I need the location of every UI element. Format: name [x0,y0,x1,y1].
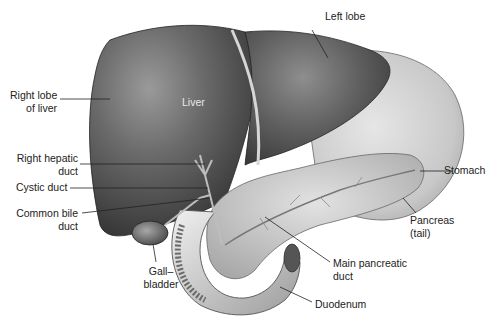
label-right-hepatic-line2: duct [14,165,78,178]
label-main-pancreatic-line2: duct [333,270,407,283]
label-main-pancreatic-duct: Main pancreatic duct [333,257,407,283]
label-liver: Liver [182,96,205,109]
label-right-lobe: Right lobe of liver [10,89,57,115]
label-common-bile-duct: Common bile duct [14,207,78,233]
label-stomach: Stomach [444,164,485,177]
label-right-lobe-line1: Right lobe [10,89,57,102]
label-duodenum: Duodenum [315,298,366,311]
label-common-bile-line1: Common bile [14,207,78,220]
label-pancreas-line2: (tail) [410,227,454,240]
label-right-lobe-line2: of liver [10,102,57,115]
label-pancreas: Pancreas (tail) [410,214,454,240]
duodenum-lumen [284,244,300,272]
gallbladder-shape [132,221,168,245]
label-main-pancreatic-line1: Main pancreatic [333,257,407,270]
label-gallbladder-line2: bladder [136,278,186,291]
label-right-hepatic-line1: Right hepatic [14,152,78,165]
label-common-bile-line2: duct [14,220,78,233]
label-left-lobe: Left lobe [325,10,365,23]
label-cystic-duct: Cystic duct [16,181,67,194]
label-right-hepatic-duct: Right hepatic duct [14,152,78,178]
label-gallbladder: Gall– bladder [136,265,186,291]
label-gallbladder-line1: Gall– [136,265,186,278]
label-pancreas-line1: Pancreas [410,214,454,227]
